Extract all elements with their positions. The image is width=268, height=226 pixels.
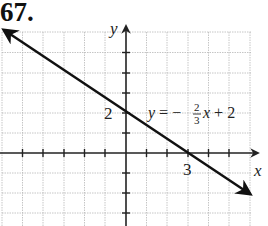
problem-number: 67.: [0, 0, 34, 28]
graph-figure: 67.: [0, 0, 268, 226]
coordinate-plane: y x 2 3 y = − 2 3 x + 2: [0, 0, 268, 226]
equation-label: y = − 2 3 x + 2: [146, 101, 235, 126]
y-intercept-label: 2: [104, 104, 113, 123]
y-axis-label: y: [108, 19, 118, 38]
x-intercept-label: 3: [183, 160, 192, 179]
grid: [2, 32, 252, 226]
x-axis-label: x: [253, 161, 262, 180]
svg-text:x + 2: x + 2: [202, 104, 235, 121]
axes: [0, 26, 258, 226]
svg-text:y = −: y = −: [146, 104, 181, 122]
svg-text:3: 3: [194, 114, 200, 126]
svg-text:2: 2: [194, 101, 200, 113]
